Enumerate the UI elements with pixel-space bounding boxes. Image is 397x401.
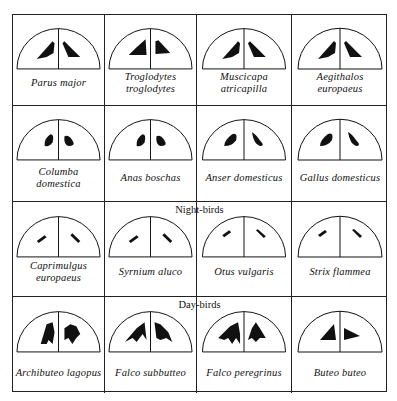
species-label-line: europaeus: [13, 272, 104, 284]
bird-group-row: Parus majorTroglodytestroglodytesMuscica…: [13, 15, 386, 106]
species-label-line: Troglodytes: [105, 71, 196, 83]
right-eye-field-icon: [162, 233, 172, 243]
species-label-line: Aegithalos: [292, 71, 388, 83]
species-label-line: domestica: [13, 178, 104, 190]
bird-cell: Parus major: [13, 15, 105, 105]
species-label: Aegithaloseuropaeus: [292, 71, 388, 95]
species-label: Troglodytestroglodytes: [105, 71, 196, 95]
species-label: Parus major: [13, 77, 104, 89]
bird-cell: Muscicapaatricapilla: [197, 15, 292, 105]
species-label: Archibuteo lagopus: [13, 367, 104, 379]
species-label-line: Muscicapa: [197, 71, 291, 83]
visual-field-semicircle-icon: [197, 106, 291, 202]
right-eye-field-icon: [348, 132, 359, 146]
bird-group-row: ColumbadomesticaAnas boschasAnser domest…: [13, 106, 386, 202]
left-eye-field-icon: [129, 39, 147, 55]
species-label-line: Buteo buteo: [292, 367, 388, 379]
species-label-line: Falco peregrinus: [197, 367, 291, 379]
species-label-line: Caprimulgus: [13, 260, 104, 272]
right-eye-field-icon: [64, 136, 73, 146]
species-label: Columbadomestica: [13, 166, 104, 190]
right-eye-field-icon: [70, 233, 80, 243]
bird-cell: Troglodytestroglodytes: [105, 15, 197, 105]
bird-cell: Buteo buteo: [292, 297, 388, 393]
species-label: Falco subbutteo: [105, 367, 196, 379]
species-label-line: Columba: [13, 166, 104, 178]
bird-cell: Anas boschas: [105, 106, 197, 201]
bird-group-row: Night-birdsCaprimulguseuropaeusSyrnium a…: [13, 202, 386, 297]
visual-field-semicircle-icon: [292, 202, 388, 297]
species-label-line: Parus major: [13, 77, 104, 89]
species-label-line: Otus vulgaris: [197, 266, 291, 278]
species-label: Anser domesticus: [197, 172, 291, 184]
bird-cell: Caprimulguseuropaeus: [13, 202, 105, 296]
left-eye-field-icon: [320, 324, 336, 340]
left-eye-field-icon: [318, 41, 336, 59]
bird-cell: Columbadomestica: [13, 106, 105, 201]
species-label-line: Anas boschas: [105, 172, 196, 184]
right-eye-field-icon: [62, 41, 80, 57]
left-eye-field-icon: [320, 134, 333, 146]
bird-cell: Gallus domesticus: [292, 106, 388, 201]
left-eye-field-icon: [218, 322, 240, 344]
species-label: Buteo buteo: [292, 367, 388, 379]
species-label-line: Archibuteo lagopus: [13, 367, 104, 379]
left-eye-field-icon: [222, 230, 231, 237]
species-label: Otus vulgaris: [197, 266, 291, 278]
right-eye-field-icon: [64, 324, 80, 344]
right-eye-field-icon: [248, 322, 266, 342]
bird-cell: Strix flammea: [292, 202, 388, 296]
group-header: Night-birds: [13, 204, 386, 215]
left-eye-field-icon: [45, 134, 54, 146]
visual-field-semicircle-icon: [197, 202, 291, 297]
bird-cell: Otus vulgaris: [197, 202, 292, 296]
species-label: Strix flammea: [292, 266, 388, 278]
right-eye-field-icon: [155, 40, 170, 54]
bird-cell: Anser domesticus: [197, 106, 292, 201]
species-label-line: Gallus domesticus: [292, 172, 388, 184]
species-label-line: europaeus: [292, 83, 388, 95]
left-eye-field-icon: [41, 322, 55, 344]
bird-visual-field-diagram: Parus majorTroglodytestroglodytesMuscica…: [12, 14, 387, 392]
left-eye-field-icon: [129, 235, 139, 243]
bird-group-row: Day-birdsArchibuteo lagopusFalco subbutt…: [13, 297, 386, 393]
bird-cell: Aegithaloseuropaeus: [292, 15, 388, 105]
left-eye-field-icon: [318, 230, 327, 237]
right-eye-field-icon: [154, 322, 172, 342]
right-eye-field-icon: [252, 132, 263, 146]
visual-field-semicircle-icon: [105, 202, 196, 297]
bird-cell: Falco peregrinus: [197, 297, 292, 393]
right-eye-field-icon: [256, 229, 266, 238]
species-label: Gallus domesticus: [292, 172, 388, 184]
species-label-line: troglodytes: [105, 83, 196, 95]
left-eye-field-icon: [37, 41, 55, 59]
visual-field-semicircle-icon: [105, 106, 196, 202]
species-label: Caprimulguseuropaeus: [13, 260, 104, 284]
species-label: Anas boschas: [105, 172, 196, 184]
right-eye-field-icon: [352, 229, 362, 238]
left-eye-field-icon: [222, 41, 240, 59]
right-eye-field-icon: [156, 136, 165, 146]
bird-cell: Falco subbutteo: [105, 297, 197, 393]
species-label-line: Falco subbutteo: [105, 367, 196, 379]
species-label: Muscicapaatricapilla: [197, 71, 291, 95]
species-label-line: Anser domesticus: [197, 172, 291, 184]
right-eye-field-icon: [344, 328, 360, 340]
right-eye-field-icon: [344, 41, 362, 57]
group-header: Day-birds: [13, 299, 386, 310]
visual-field-semicircle-icon: [13, 15, 104, 106]
visual-field-semicircle-icon: [292, 106, 388, 202]
right-eye-field-icon: [248, 41, 266, 57]
bird-cell: Syrnium aluco: [105, 202, 197, 296]
left-eye-field-icon: [37, 235, 47, 243]
species-label: Falco peregrinus: [197, 367, 291, 379]
left-eye-field-icon: [137, 134, 146, 146]
species-label-line: atricapilla: [197, 83, 291, 95]
left-eye-field-icon: [125, 322, 147, 342]
species-label: Syrnium aluco: [105, 266, 196, 278]
bird-cell: Archibuteo lagopus: [13, 297, 105, 393]
species-label-line: Syrnium aluco: [105, 266, 196, 278]
species-label-line: Strix flammea: [292, 266, 388, 278]
left-eye-field-icon: [224, 134, 236, 146]
